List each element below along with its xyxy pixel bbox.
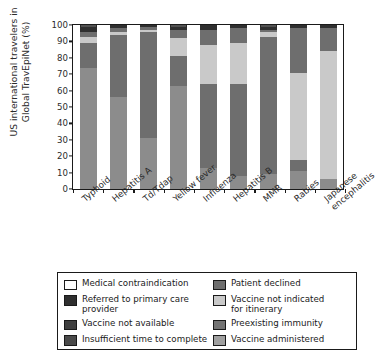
legend-item-label: Vaccine not indicated for itinerary	[231, 294, 324, 315]
legend-item[interactable]: Vaccine administered	[213, 334, 350, 346]
bar-segment	[170, 86, 187, 189]
bar-segment	[230, 84, 247, 176]
x-tick-mark	[73, 189, 74, 193]
bar-segment	[320, 51, 337, 179]
x-tick-mark	[285, 189, 286, 193]
bar	[290, 25, 307, 189]
legend-swatch-icon	[213, 295, 226, 306]
bar-segment	[290, 160, 307, 171]
legend-column-left: Medical contraindicationReferred to prim…	[64, 278, 213, 344]
legend-item[interactable]: Medical contraindication	[64, 278, 213, 290]
bar-segment	[200, 84, 217, 168]
legend-item-label: Medical contraindication	[82, 278, 189, 289]
y-tick-label: 40	[24, 118, 73, 128]
bar-segment	[200, 45, 217, 84]
bar-segment	[260, 37, 277, 175]
bar-segment	[290, 28, 307, 72]
bar	[170, 25, 187, 189]
legend-item[interactable]: Insufficient time to complete	[64, 334, 213, 346]
legend-item[interactable]: Referred to primary care provider	[64, 294, 213, 315]
bar-segment	[80, 68, 97, 189]
legend-swatch-icon	[64, 295, 77, 306]
legend-swatch-icon	[64, 335, 77, 346]
bar-segment	[80, 43, 97, 68]
legend-item[interactable]: Preexisting immunity	[213, 318, 350, 330]
bar-segment	[110, 35, 127, 97]
chart-legend: Medical contraindicationReferred to prim…	[57, 272, 357, 350]
bar	[80, 25, 97, 189]
bar-segment	[320, 28, 337, 51]
legend-item-label: Preexisting immunity	[231, 318, 323, 329]
bar	[230, 25, 247, 189]
y-tick-label: 0	[24, 184, 73, 194]
bar	[140, 25, 157, 189]
bar	[110, 25, 127, 189]
y-tick-label: 50	[24, 102, 73, 112]
legend-swatch-icon	[64, 280, 77, 291]
legend-item-label: Vaccine administered	[231, 334, 324, 345]
legend-item-label: Patient declined	[231, 278, 301, 289]
y-tick-label: 70	[24, 69, 73, 79]
legend-swatch-icon	[213, 335, 226, 346]
y-tick-label: 80	[24, 53, 73, 63]
bar-segment	[230, 43, 247, 84]
legend-item-label: Vaccine not available	[82, 318, 174, 329]
legend-item[interactable]: Vaccine not available	[64, 318, 213, 330]
legend-item-label: Insufficient time to complete	[82, 334, 207, 345]
bar-segment	[170, 56, 187, 86]
y-tick-label: 60	[24, 86, 73, 96]
legend-swatch-icon	[64, 320, 77, 331]
y-tick-label: 90	[24, 36, 73, 46]
bar-segment	[110, 97, 127, 189]
bar-segment	[290, 73, 307, 160]
legend-item[interactable]: Vaccine not indicated for itinerary	[213, 294, 350, 315]
legend-swatch-icon	[213, 280, 226, 291]
bar-segment	[200, 30, 217, 45]
legend-column-right: Patient declinedVaccine not indicated fo…	[213, 278, 350, 344]
y-tick-label: 20	[24, 151, 73, 161]
bar-segment	[170, 38, 187, 56]
bar-segment	[140, 32, 157, 139]
bar-segment	[230, 28, 247, 43]
bar-segment	[170, 30, 187, 38]
legend-swatch-icon	[213, 320, 226, 331]
bar	[320, 25, 337, 189]
y-tick-label: 100	[24, 20, 73, 30]
y-tick-label: 30	[24, 135, 73, 145]
y-tick-label: 10	[24, 168, 73, 178]
legend-item-label: Referred to primary care provider	[82, 294, 189, 315]
legend-item[interactable]: Patient declined	[213, 278, 350, 290]
